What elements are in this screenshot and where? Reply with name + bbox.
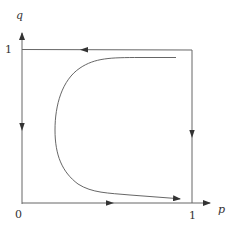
- bottom-edge-arrow-right-icon: [106, 200, 114, 205]
- right-edge-arrow-down-icon: [189, 130, 194, 138]
- x-tick-label: 1: [189, 210, 196, 221]
- box-top-edge: [22, 50, 192, 51]
- x-axis-label: p: [218, 204, 225, 215]
- top-edge-arrow-left-icon: [80, 47, 88, 52]
- y-tick-label: 1: [5, 44, 12, 55]
- y-axis-label: q: [16, 10, 23, 21]
- origin-label: 0: [15, 209, 22, 220]
- phase-diagram: [0, 0, 237, 232]
- left-edge-arrow-down-icon: [19, 123, 24, 131]
- trajectory-curve: [55, 58, 180, 199]
